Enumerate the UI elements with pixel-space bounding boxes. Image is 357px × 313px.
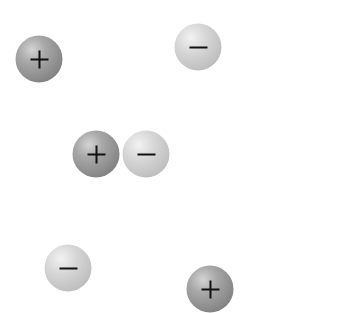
positive-charge-sphere: +	[16, 36, 63, 83]
plus-icon	[200, 279, 220, 299]
charge-sign-label: −	[123, 131, 124, 132]
negative-charge-sphere: −	[45, 245, 92, 292]
minus-icon	[58, 258, 78, 278]
charge-sign-label: +	[16, 36, 17, 37]
plus-icon	[29, 49, 49, 69]
minus-icon	[136, 144, 156, 164]
charge-sign-label: −	[45, 245, 46, 246]
negative-charge-sphere: −	[175, 24, 222, 71]
positive-charge-sphere: +	[187, 266, 234, 313]
negative-charge-sphere: −	[123, 131, 170, 178]
charge-sign-label: +	[73, 131, 74, 132]
charge-sign-label: +	[187, 266, 188, 267]
charge-sign-label: −	[175, 24, 176, 25]
minus-icon	[188, 37, 208, 57]
positive-charge-sphere: +	[73, 131, 120, 178]
plus-icon	[86, 144, 106, 164]
